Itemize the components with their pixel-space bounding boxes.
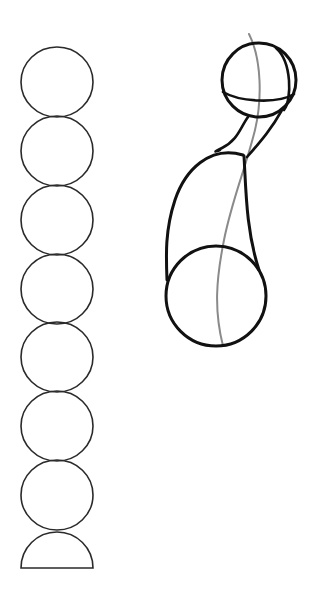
base-sphere	[166, 246, 266, 346]
stack-circle	[21, 116, 93, 186]
sketch-canvas: Pencil sketch: stack of circles and arm/…	[0, 0, 323, 610]
stack-circle	[21, 254, 93, 324]
stack-circle	[21, 185, 93, 255]
stack-circle	[21, 322, 93, 392]
sketch-svg	[0, 0, 323, 610]
circle-stack	[21, 47, 93, 530]
body-right	[244, 156, 259, 270]
stack-circle	[21, 391, 93, 461]
body-left	[166, 153, 243, 280]
stack-circle	[21, 47, 93, 117]
limb-figure	[166, 34, 296, 346]
neck-left	[216, 117, 248, 151]
half-circle	[21, 532, 93, 568]
stack-circle	[21, 460, 93, 530]
head-equator	[223, 92, 294, 101]
